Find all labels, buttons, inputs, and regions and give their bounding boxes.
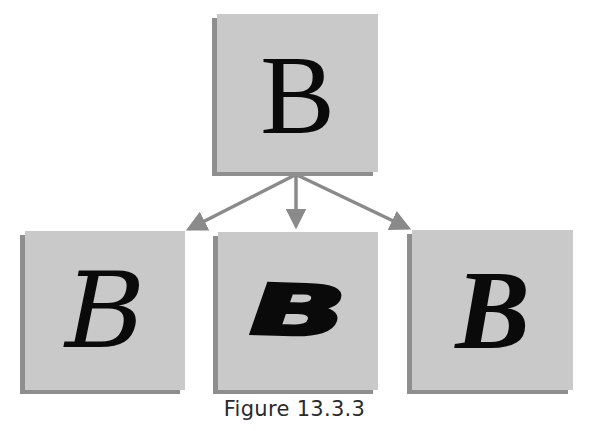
letter-b-plain: B — [260, 39, 335, 151]
italic-letter-box: B — [412, 230, 573, 390]
figure-caption: Figure 13.3.3 — [0, 397, 589, 421]
script-letter-box: B — [25, 231, 185, 390]
letter-b-bold-italic: B — [455, 254, 530, 366]
arrow-to-italic-b — [297, 175, 408, 228]
letter-b-heavy: B — [237, 275, 359, 347]
letter-b-script: B — [65, 259, 145, 363]
heavy-letter-box: B — [218, 232, 378, 390]
arrow-to-script-b — [189, 175, 295, 229]
root-letter-box: B — [217, 14, 378, 172]
